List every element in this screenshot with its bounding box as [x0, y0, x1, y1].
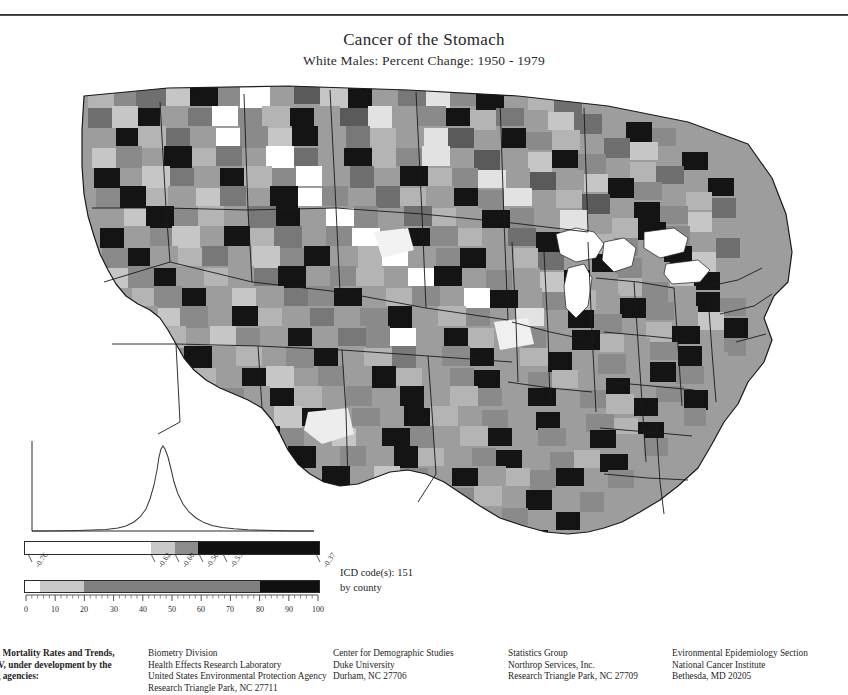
percentile-segment-3 [260, 581, 319, 592]
density-curve [32, 446, 314, 531]
footer-biometry-line-2: United States Environmental Protection A… [148, 671, 327, 683]
density-plot-svg [26, 437, 318, 539]
percentile-tick-2: 20 [80, 605, 88, 614]
footer-biometry-line-3: Research Triangle Park, NC 27711 [148, 683, 327, 695]
percentile-segment-1 [40, 581, 84, 592]
value-label-leader-lines [16, 554, 336, 568]
footer-program-line-1: e IV, under development by the [0, 660, 148, 672]
percentile-tick-8: 80 [256, 605, 264, 614]
percentile-axis: 0 10 20 30 40 50 60 70 80 90 100 [24, 594, 320, 616]
footer-demographic-line-0: Center for Demographic Studies [333, 648, 454, 660]
percentile-tick-0: 0 [24, 605, 28, 614]
value-density-plot [26, 437, 318, 539]
percentile-tick-10: 100 [312, 605, 324, 614]
footer-statistics-block: Statistics Group Northrop Services, Inc.… [508, 648, 638, 683]
icd-note: ICD code(s): 151 by county [340, 565, 413, 595]
percentile-tick-labels: 0 10 20 30 40 50 60 70 80 90 100 [24, 605, 320, 616]
footer-statistics-line-1: Northrop Services, Inc. [508, 660, 638, 672]
footer-statistics-line-2: Research Triangle Park, NC 27709 [508, 671, 638, 683]
percentile-segment-0 [25, 581, 40, 592]
page-header-rule [0, 14, 848, 16]
percentile-tick-6: 60 [197, 605, 205, 614]
value-legend-bar [24, 541, 320, 555]
icd-code-line: ICD code(s): 151 [340, 565, 413, 580]
footer-demographic-line-2: Durham, NC 27706 [333, 671, 454, 683]
percentile-tick-9: 90 [285, 605, 293, 614]
footer-demographic-line-1: Duke University [333, 660, 454, 672]
footer-program-line-2: ing agencies: [0, 671, 148, 683]
unit-line: by county [340, 580, 413, 595]
percentile-segment-2 [84, 581, 260, 592]
percentile-tick-5: 50 [168, 605, 176, 614]
page-title: Cancer of the Stomach [0, 30, 848, 50]
percentile-tick-3: 30 [110, 605, 118, 614]
footer-epidemiology-line-0: Evironmental Epidemiology Section [672, 648, 808, 660]
footer-epidemiology-block: Evironmental Epidemiology Section Nation… [672, 648, 808, 683]
footer-program-block: ..S. Mortality Rates and Trends, e IV, u… [0, 648, 148, 683]
footer-program-line-0: ..S. Mortality Rates and Trends, [0, 648, 148, 660]
percentile-tick-7: 70 [226, 605, 234, 614]
footer-biometry-block: Biometry Division Health Effects Researc… [148, 648, 327, 694]
percentile-tick-4: 40 [139, 605, 147, 614]
page-subtitle: White Males: Percent Change: 1950 - 1979 [0, 53, 848, 69]
percentile-legend-bar [24, 580, 320, 593]
percentile-tick-1: 10 [51, 605, 59, 614]
footer-epidemiology-line-2: Bethesda, MD 20205 [672, 671, 808, 683]
footer-biometry-line-1: Health Effects Research Laboratory [148, 660, 327, 672]
percentile-axis-ticks [24, 594, 320, 604]
footer-statistics-line-0: Statistics Group [508, 648, 638, 660]
footer: ..S. Mortality Rates and Trends, e IV, u… [0, 648, 848, 695]
footer-demographic-block: Center for Demographic Studies Duke Univ… [333, 648, 454, 683]
footer-epidemiology-line-1: National Cancer Institute [672, 660, 808, 672]
footer-biometry-line-0: Biometry Division [148, 648, 327, 660]
title-block: Cancer of the Stomach White Males: Perce… [0, 30, 848, 69]
